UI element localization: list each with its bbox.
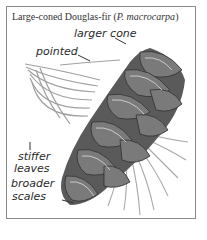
label-broader: broader bbox=[11, 178, 54, 190]
label-pointed: pointed bbox=[36, 46, 78, 58]
cone-icon bbox=[61, 48, 185, 205]
label-scales: scales bbox=[12, 191, 46, 203]
label-larger-cone: larger cone bbox=[74, 28, 137, 40]
label-leaves: leaves bbox=[14, 163, 50, 175]
